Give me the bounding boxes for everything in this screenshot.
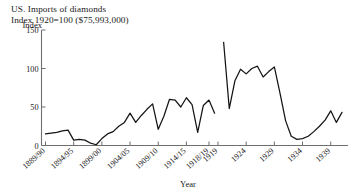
x-tick-label: 1909/10 bbox=[134, 146, 160, 171]
y-axis: Index 050100150 bbox=[22, 20, 45, 151]
x-tick-label: 1904/05 bbox=[105, 146, 131, 171]
y-tick-group: 050100150 bbox=[26, 26, 45, 151]
x-axis-title: Year bbox=[180, 179, 196, 189]
x-tick-label: 1914/15 bbox=[162, 146, 188, 171]
series-line-fiscal bbox=[46, 98, 215, 145]
x-tick-label: 1924 bbox=[229, 146, 247, 164]
x-tick-label: 1894/95 bbox=[49, 146, 75, 171]
x-tick-label: 1899/00 bbox=[77, 146, 103, 171]
x-tick-label: 1929 bbox=[258, 146, 276, 164]
y-tick-label: 50 bbox=[30, 103, 38, 112]
y-tick-label: 100 bbox=[26, 65, 38, 74]
line-chart-plot: Index 050100150 1889/901894/951899/00190… bbox=[0, 0, 361, 196]
data-series-group bbox=[46, 42, 343, 144]
x-tick-label: 1934 bbox=[286, 146, 304, 164]
chart-figure: US. Imports of diamonds Index 1920=100 (… bbox=[0, 0, 361, 196]
x-axis: 1889/901894/951899/001904/051909/101914/… bbox=[21, 142, 348, 190]
y-tick-label: 150 bbox=[26, 26, 38, 35]
series-line-calendar bbox=[224, 42, 342, 139]
x-tick-label: 1939 bbox=[314, 146, 332, 164]
